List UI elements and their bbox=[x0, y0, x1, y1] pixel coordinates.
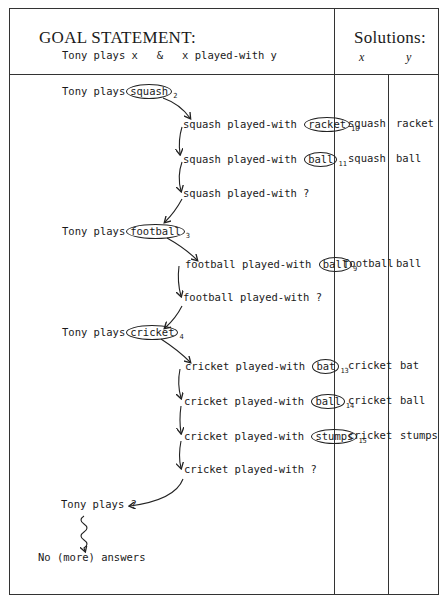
clause-index: 11 bbox=[338, 160, 346, 168]
solutions-col-x: x bbox=[359, 50, 364, 65]
subgoal-prefix: cricket played-with bbox=[184, 430, 304, 442]
circled-binding: ball bbox=[304, 152, 337, 167]
goal-prefix: Tony plays bbox=[62, 225, 125, 237]
goal-statement-text: Tony plays x & x played-with y bbox=[62, 49, 277, 61]
subgoal-cricket-bat: cricket played-with bat13 bbox=[185, 359, 349, 375]
solution-y: stumps bbox=[400, 429, 438, 441]
solution-x: football bbox=[343, 257, 394, 269]
goal-statement-title: GOAL STATEMENT: bbox=[39, 28, 196, 48]
solution-x: squash bbox=[348, 117, 386, 129]
subgoal-cricket-stumps: cricket played-with stumps15 bbox=[184, 429, 367, 445]
solutions-title: Solutions: bbox=[354, 28, 426, 48]
subgoal-squash-racket: squash played-with racket10 bbox=[183, 117, 360, 133]
solution-x: cricket bbox=[348, 359, 392, 371]
clause-index: 2 bbox=[173, 92, 177, 100]
subgoal-prefix: squash played-with bbox=[183, 153, 297, 165]
circled-binding: bat bbox=[312, 359, 339, 374]
solution-y: ball bbox=[396, 152, 421, 164]
goal-prefix: Tony plays bbox=[62, 85, 125, 97]
xy-divider bbox=[388, 74, 389, 595]
subgoal-football-ball: football played-with ball9 bbox=[185, 257, 357, 273]
solution-y: racket bbox=[396, 117, 434, 129]
goal-tony-plays-football: Tony playsfootball3 bbox=[62, 224, 190, 240]
fail-cricket: cricket played-with ? bbox=[184, 463, 317, 475]
circled-binding: racket bbox=[304, 117, 350, 132]
subgoal-prefix: cricket played-with bbox=[185, 360, 305, 372]
goal-prefix: Tony plays bbox=[62, 326, 125, 338]
clause-index: 4 bbox=[179, 333, 183, 341]
solution-y: bat bbox=[400, 359, 419, 371]
circled-binding: ball bbox=[311, 394, 344, 409]
solution-x: cricket bbox=[348, 394, 392, 406]
circled-binding: cricket bbox=[126, 325, 178, 340]
fail-football: football played-with ? bbox=[183, 291, 322, 303]
solution-x: squash bbox=[348, 152, 386, 164]
subgoal-squash-ball: squash played-with ball11 bbox=[183, 152, 347, 168]
goal-tony-plays-squash: Tony playssquash2 bbox=[62, 84, 177, 100]
solutions-divider bbox=[334, 8, 335, 595]
solution-x: cricket bbox=[348, 429, 392, 441]
fail-squash: squash played-with ? bbox=[183, 187, 309, 199]
header-separator bbox=[9, 74, 439, 75]
goal-tony-plays-cricket: Tony playscricket4 bbox=[62, 325, 184, 341]
no-more-answers: No (more) answers bbox=[38, 551, 145, 563]
circled-binding: squash bbox=[126, 84, 172, 99]
subgoal-prefix: football played-with bbox=[185, 258, 311, 270]
solutions-col-y: y bbox=[406, 50, 411, 65]
clause-index: 3 bbox=[186, 232, 190, 240]
solution-y: ball bbox=[400, 394, 425, 406]
subgoal-prefix: cricket played-with bbox=[184, 395, 304, 407]
solution-y: ball bbox=[396, 257, 421, 269]
fail-tony-plays: Tony plays ? bbox=[61, 498, 137, 510]
subgoal-prefix: squash played-with bbox=[183, 118, 297, 130]
circled-binding: football bbox=[126, 224, 185, 239]
subgoal-cricket-ball: cricket played-with ball14 bbox=[184, 394, 354, 410]
